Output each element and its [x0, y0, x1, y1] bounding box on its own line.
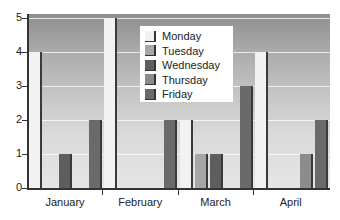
- legend-label: Wednesday: [162, 59, 220, 71]
- legend-item-monday: Monday: [145, 29, 201, 43]
- y-tick-mark: [22, 52, 27, 53]
- bar-wednesday-january: [59, 154, 72, 188]
- legend-item-wednesday: Wednesday: [145, 58, 220, 72]
- x-tick-label: January: [27, 196, 103, 208]
- bar-monday-april: [255, 52, 268, 188]
- legend-label: Thursday: [162, 74, 208, 86]
- bar-friday-february: [164, 120, 177, 188]
- bar-friday-march: [240, 86, 253, 188]
- bar-wednesday-march: [210, 154, 223, 188]
- y-tick-mark: [22, 154, 27, 155]
- y-tick-label: 2: [2, 113, 22, 125]
- y-tick-mark: [22, 120, 27, 121]
- y-tick-label: 0: [2, 181, 22, 193]
- bar-friday-april: [315, 120, 328, 188]
- legend-label: Tuesday: [162, 45, 204, 57]
- bar-tuesday-march: [195, 154, 208, 188]
- y-tick-label: 3: [2, 79, 22, 91]
- bar-monday-march: [180, 120, 193, 188]
- bar-monday-january: [29, 52, 42, 188]
- legend-label: Friday: [162, 88, 193, 100]
- bar-chart: MondayTuesdayWednesdayThursdayFriday 012…: [0, 0, 340, 220]
- x-tick-mark: [253, 190, 254, 195]
- legend-swatch: [145, 60, 156, 71]
- bar-thursday-april: [300, 154, 313, 188]
- legend-label: Monday: [162, 30, 201, 42]
- y-tick-mark: [22, 86, 27, 87]
- legend-item-thursday: Thursday: [145, 73, 208, 87]
- bar-monday-february: [104, 18, 117, 188]
- legend-swatch: [145, 74, 156, 85]
- legend-item-friday: Friday: [145, 87, 193, 101]
- legend: MondayTuesdayWednesdayThursdayFriday: [140, 26, 233, 102]
- legend-swatch: [145, 89, 156, 100]
- bar-friday-january: [89, 120, 102, 188]
- legend-item-tuesday: Tuesday: [145, 44, 204, 58]
- x-tick-label: April: [253, 196, 329, 208]
- x-tick-mark: [178, 190, 179, 195]
- x-tick-label: February: [102, 196, 178, 208]
- x-tick-mark: [102, 190, 103, 195]
- y-tick-label: 1: [2, 147, 22, 159]
- y-tick-label: 4: [2, 45, 22, 57]
- y-tick-mark: [22, 18, 27, 19]
- y-tick-mark: [22, 188, 27, 189]
- legend-swatch: [145, 31, 156, 42]
- gridline: [29, 18, 330, 19]
- legend-swatch: [145, 45, 156, 56]
- y-tick-label: 5: [2, 11, 22, 23]
- x-tick-label: March: [178, 196, 254, 208]
